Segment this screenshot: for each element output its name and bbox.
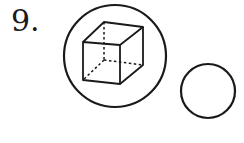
figure	[0, 0, 244, 143]
cube-icon	[83, 22, 143, 84]
small-circle	[181, 64, 235, 118]
large-circle	[64, 5, 166, 107]
